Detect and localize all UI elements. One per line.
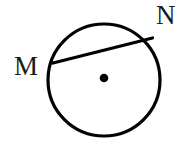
point-label-m: M xyxy=(14,53,38,80)
circle-diagram: M N xyxy=(0,0,190,146)
chord-mn-line xyxy=(53,38,153,63)
center-point-dot xyxy=(100,74,109,83)
point-label-n: N xyxy=(156,2,176,29)
